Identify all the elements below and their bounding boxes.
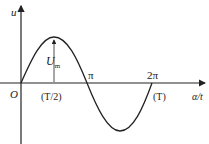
tick-pi-label: π [88,69,94,81]
tick-2pi-label: 2π [147,69,159,81]
sine-wave-diagram: u O Um π 2π (T/2) (T) α/t [0,0,209,144]
origin-label: O [10,88,18,100]
sine-curve [21,37,152,131]
x-axis-label: α/t [192,91,203,102]
period-label: (T) [153,91,166,103]
y-axis-label: u [11,6,17,18]
half-period-label: (T/2) [41,91,62,103]
amplitude-label: Um [46,54,61,70]
